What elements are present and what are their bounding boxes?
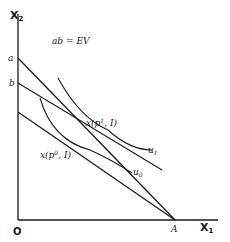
ev-annotation: ab = EV: [52, 36, 91, 46]
curve-u1-label: u1: [148, 145, 158, 156]
intercept-b-label: b: [9, 78, 15, 88]
y-axis-label: X2: [10, 9, 23, 23]
intercept-a-label: a: [8, 53, 13, 63]
x-axis-label: X1: [200, 221, 213, 235]
point-p0-label: x(p0, I): [40, 149, 71, 160]
intercept-A-label: A: [170, 224, 178, 234]
origin-label: O: [13, 226, 22, 237]
budget-line-a: [18, 58, 175, 220]
budget-line-original: [18, 112, 175, 220]
indifference-diagram: X2 X1 O ab = EV a b A x(p1, I) x(p0, I) …: [0, 0, 230, 242]
curve-u0-label: u0: [133, 167, 143, 178]
